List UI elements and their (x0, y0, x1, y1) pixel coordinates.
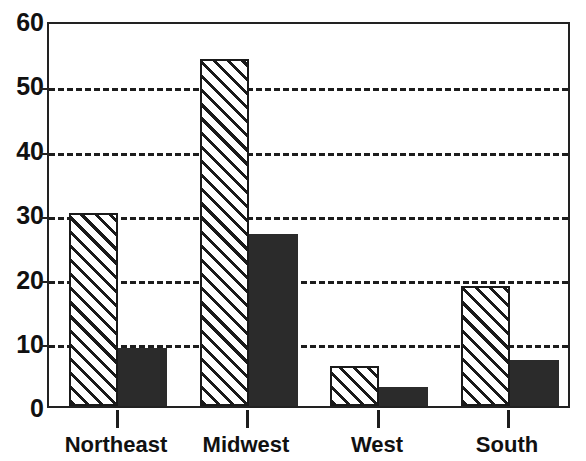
y-tick-label-30: 30 (0, 203, 44, 228)
y-axis-labels: 60 50 40 30 20 10 0 (0, 0, 44, 461)
y-tick-mark-20 (40, 281, 49, 283)
y-tick-label-60: 60 (0, 10, 44, 35)
y-tick-mark-40 (40, 153, 49, 155)
bar-west-hatched (330, 366, 379, 406)
y-tick-label-0: 0 (0, 396, 44, 421)
x-axis-label-midwest: Midwest (203, 432, 290, 458)
y-tick-label-40: 40 (0, 139, 44, 164)
y-tick-label-10: 10 (0, 332, 44, 357)
y-tick-label-20: 20 (0, 268, 44, 293)
x-tick-mark-northeast (116, 410, 119, 428)
y-tick-label-50: 50 (0, 74, 44, 99)
x-axis-label-west: West (351, 432, 403, 458)
plot-area (47, 22, 570, 408)
bar-west-solid (379, 387, 428, 406)
x-tick-mark-west (377, 410, 380, 428)
bars-layer (49, 24, 568, 406)
y-tick-mark-10 (40, 345, 49, 347)
bar-chart-figure: 60 50 40 30 20 10 0 (0, 0, 586, 461)
y-tick-mark-30 (40, 217, 49, 219)
y-tick-mark-50 (40, 88, 49, 90)
x-axis-label-northeast: Northeast (65, 432, 168, 458)
bar-south-hatched (461, 286, 510, 406)
bar-south-solid (510, 360, 559, 406)
x-tick-mark-south (507, 410, 510, 428)
x-axis-label-south: South (476, 432, 538, 458)
bar-northeast-solid (118, 348, 167, 406)
x-tick-mark-midwest (246, 410, 249, 428)
bar-midwest-hatched (200, 59, 249, 406)
bar-midwest-solid (249, 234, 298, 406)
bar-northeast-hatched (69, 213, 118, 406)
